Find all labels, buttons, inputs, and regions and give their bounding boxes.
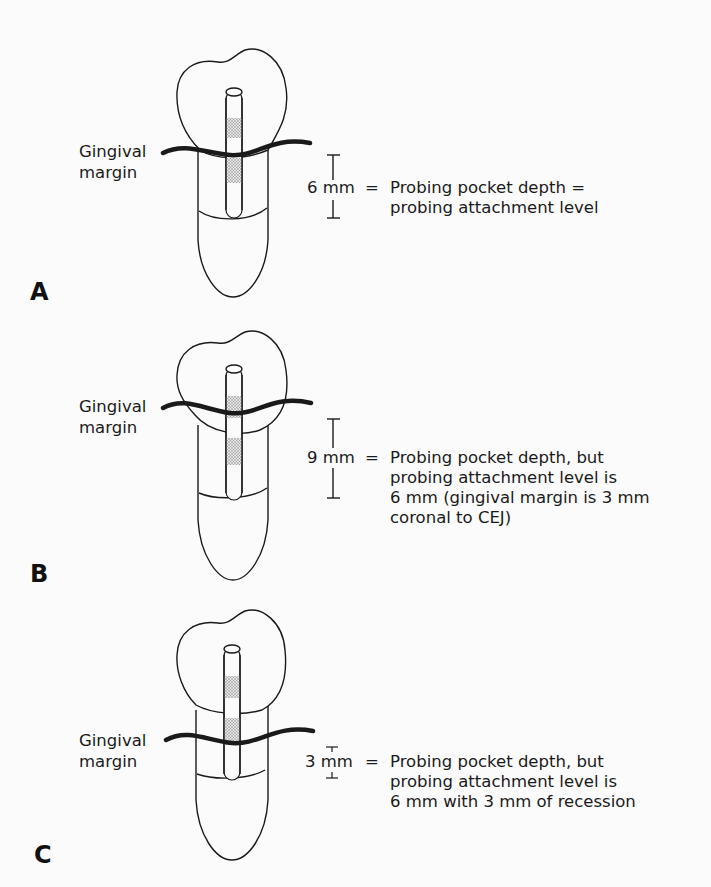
description-a-line2: probing attachment level <box>390 198 599 217</box>
panel-label-b: B <box>30 560 48 588</box>
description-c-line3: 6 mm with 3 mm of recession <box>390 792 636 811</box>
panel-a-tooth <box>163 49 340 297</box>
equals-c: = <box>365 752 379 771</box>
gingival-label-b-line1: Gingival <box>79 397 146 416</box>
description-b-line3: 6 mm (gingival margin is 3 mm <box>390 488 650 507</box>
equals-b: = <box>365 448 379 467</box>
description-c-line1: Probing pocket depth, but <box>390 752 604 771</box>
gingival-label-a-line1: Gingival <box>79 142 146 161</box>
equals-a: = <box>365 178 379 197</box>
gingival-label-c-line1: Gingival <box>79 731 146 750</box>
description-b-line2: probing attachment level is <box>390 468 617 487</box>
gingival-label-c-line2: margin <box>79 752 137 771</box>
panel-label-c: C <box>34 841 52 869</box>
description-b-line1: Probing pocket depth, but <box>390 448 604 467</box>
measurement-b: 9 mm <box>307 448 355 467</box>
gingival-label-b-line2: margin <box>79 418 137 437</box>
description-a-line1: Probing pocket depth = <box>390 178 585 197</box>
description-b-line4: coronal to CEJ) <box>390 508 511 527</box>
periodontal-probe <box>226 365 242 500</box>
measurement-a: 6 mm <box>307 178 355 197</box>
panel-c-tooth <box>166 610 338 860</box>
measurement-c: 3 mm <box>305 752 353 771</box>
description-c-line2: probing attachment level is <box>390 772 617 791</box>
panel-label-a: A <box>30 278 49 306</box>
gingival-label-a-line2: margin <box>79 163 137 182</box>
periodontal-probe <box>224 645 240 780</box>
